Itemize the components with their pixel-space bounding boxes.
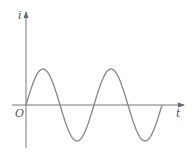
x-axis-label: t bbox=[176, 107, 181, 120]
origin-label: O bbox=[15, 107, 24, 120]
waveform-diagram: i O t bbox=[0, 0, 192, 159]
y-axis-label: i bbox=[18, 9, 22, 22]
